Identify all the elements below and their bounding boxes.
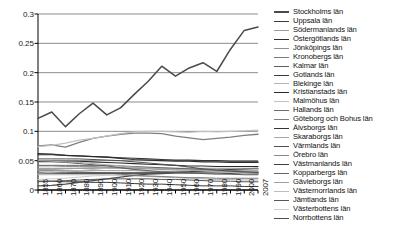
x-tick-label: 1890 <box>96 179 105 196</box>
legend-swatch-line-icon <box>274 48 289 49</box>
legend-swatch-line-icon <box>274 218 289 219</box>
legend-swatch-line-icon <box>274 66 289 67</box>
legend-swatch-line-icon <box>274 110 289 111</box>
legend-swatch-line-icon <box>274 173 289 174</box>
legend-swatch-line-icon <box>274 164 289 165</box>
legend-swatch-line-icon <box>274 191 289 192</box>
chart-legend: Stockholms länUppsala länSödermanlands l… <box>268 8 405 223</box>
x-tick-label: 1870 <box>69 179 78 196</box>
x-tick-label: 1860 <box>55 179 64 196</box>
x-tick-label: 1950 <box>179 179 188 196</box>
legend-item: Kronobergs län <box>268 53 405 62</box>
legend-swatch-line-icon <box>274 75 289 76</box>
x-tick-label: 1910 <box>124 179 133 196</box>
x-axis-tick-labels: 1855186018701880189019001910192019301940… <box>0 0 265 252</box>
legend-swatch-line-icon <box>274 209 289 210</box>
legend-swatch-line-icon <box>274 21 289 22</box>
legend-swatch-line-icon <box>274 155 289 156</box>
legend-swatch-line-icon <box>274 39 289 40</box>
legend-label: Norrbottens län <box>293 214 343 223</box>
legend-swatch-line-icon <box>274 137 289 138</box>
legend-item: Malmöhus län <box>268 97 405 106</box>
legend-swatch-line-icon <box>274 128 289 129</box>
legend-swatch-line-icon <box>274 182 289 183</box>
x-tick-label: 1880 <box>82 179 91 196</box>
x-tick-label: 1960 <box>192 179 201 196</box>
x-tick-label: 1900 <box>110 179 119 196</box>
legend-swatch-line-icon <box>274 92 289 93</box>
x-tick-label: 1855 <box>41 179 50 196</box>
legend-swatch-line-icon <box>274 101 289 102</box>
x-tick-label: 1920 <box>137 179 146 196</box>
x-tick-label: 1980 <box>220 179 229 196</box>
legend-swatch-line-icon <box>274 11 289 13</box>
legend-swatch-line-icon <box>274 119 289 120</box>
x-tick-label: 1970 <box>206 179 215 196</box>
legend-item: Gotlands län <box>268 71 405 80</box>
legend-item: Kalmar län <box>268 62 405 71</box>
legend-swatch-line-icon <box>274 146 289 147</box>
legend-item: Norrbottens län <box>268 214 405 223</box>
legend-swatch-line-icon <box>274 30 289 31</box>
legend-swatch-line-icon <box>274 200 289 201</box>
legend-item: Stockholms län <box>268 8 405 17</box>
x-tick-label: 1990 <box>234 179 243 196</box>
legend-swatch-line-icon <box>274 83 289 84</box>
x-tick-label: 2000 <box>247 179 256 196</box>
x-tick-label: 1940 <box>165 179 174 196</box>
chart-root: 00.050.10.150.20.250.3 18551860187018801… <box>0 0 405 252</box>
x-tick-label: 1930 <box>151 179 160 196</box>
legend-item: Värmlands län <box>268 142 405 151</box>
legend-swatch-line-icon <box>274 57 289 58</box>
